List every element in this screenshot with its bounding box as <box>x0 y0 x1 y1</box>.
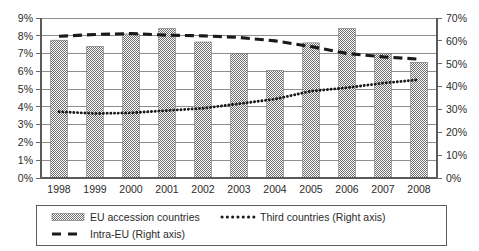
x-axis-label: 2005 <box>299 183 323 195</box>
legend-item[interactable]: EU accession countries <box>52 211 200 223</box>
x-axis-label: 2006 <box>335 183 359 195</box>
right-axis-tick-label: 50% <box>446 58 467 70</box>
x-axis-label: 2002 <box>191 183 215 195</box>
right-axis-ticks <box>437 18 442 178</box>
chart-legend: EU accession countriesThird countries (R… <box>36 205 446 245</box>
left-axis-tick-label: 4% <box>18 101 33 113</box>
left-axis-tick-label: 6% <box>18 65 33 77</box>
right-axis-tick-label: 70% <box>446 12 467 24</box>
legend-item[interactable]: Intra-EU (Right axis) <box>52 228 185 240</box>
right-axis-tick-label: 20% <box>446 126 467 138</box>
x-axis-label: 1998 <box>47 183 71 195</box>
bar <box>267 70 284 178</box>
left-axis-tick-label: 8% <box>18 30 33 42</box>
x-axis-category-labels: 1998199920002001200220032004200520062007… <box>47 183 431 195</box>
x-axis-label: 1999 <box>83 183 107 195</box>
bar-line-combo-chart: 0%1%2%3%4%5%6%7%8%9% 0%10%20%30%40%50%60… <box>0 0 479 251</box>
bar <box>303 43 320 178</box>
x-axis-label: 2007 <box>371 183 395 195</box>
legend-label: EU accession countries <box>90 211 200 223</box>
x-axis-label: 2003 <box>227 183 251 195</box>
right-axis-tick-label: 30% <box>446 103 467 115</box>
right-axis-tick-label: 10% <box>446 149 467 161</box>
legend-label: Third countries (Right axis) <box>260 211 385 223</box>
bar <box>195 42 212 178</box>
left-axis-tick-label: 9% <box>18 12 33 24</box>
left-axis-tick-label: 3% <box>18 118 33 130</box>
left-axis-tick-label: 7% <box>18 47 33 59</box>
x-axis-label: 2004 <box>263 183 287 195</box>
bar <box>231 54 248 178</box>
left-axis-tick-label: 2% <box>18 136 33 148</box>
right-axis-tick-label: 40% <box>446 80 467 92</box>
right-axis-tick-labels: 0%10%20%30%40%50%60%70% <box>446 12 467 184</box>
bar <box>375 54 392 178</box>
x-axis-label: 2001 <box>155 183 179 195</box>
legend-label: Intra-EU (Right axis) <box>90 228 185 240</box>
left-axis-tick-label: 5% <box>18 83 33 95</box>
left-axis-ticks <box>36 18 41 178</box>
right-axis-tick-label: 60% <box>446 35 467 47</box>
bar <box>123 34 140 178</box>
bar <box>51 40 68 178</box>
bar-swatch-icon <box>52 214 84 221</box>
bar <box>159 29 176 178</box>
left-axis-tick-label: 1% <box>18 154 33 166</box>
x-axis-label: 2000 <box>119 183 143 195</box>
left-axis-tick-label: 0% <box>18 172 33 184</box>
left-axis-tick-labels: 0%1%2%3%4%5%6%7%8%9% <box>18 12 33 184</box>
right-axis-tick-label: 0% <box>446 172 461 184</box>
legend-item[interactable]: Third countries (Right axis) <box>222 211 385 223</box>
chart-container: 0%1%2%3%4%5%6%7%8%9% 0%10%20%30%40%50%60… <box>0 0 479 251</box>
x-axis-label: 2008 <box>407 183 431 195</box>
